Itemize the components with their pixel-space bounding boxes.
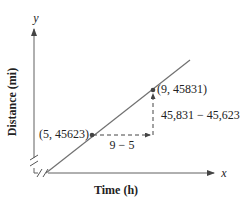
y-axis-title: Distance (mi): [5, 68, 19, 136]
point-label-9-45831: (9, 45831): [157, 82, 207, 96]
distance-time-diagram: y x Distance (mi) Time (h) (5, 45623) (9…: [0, 0, 250, 202]
y-axis: [30, 29, 38, 173]
point-5-45623: [90, 133, 95, 138]
point-label-5-45623: (5, 45623): [39, 127, 89, 141]
x-axis-symbol: x: [220, 166, 227, 180]
x-axis: [34, 169, 214, 177]
point-9-45831: [151, 88, 156, 93]
rise-label: 45,831 − 45,623: [161, 108, 240, 122]
run-label: 9 − 5: [110, 138, 135, 152]
y-axis-symbol: y: [32, 11, 39, 25]
x-axis-title: Time (h): [94, 183, 138, 197]
